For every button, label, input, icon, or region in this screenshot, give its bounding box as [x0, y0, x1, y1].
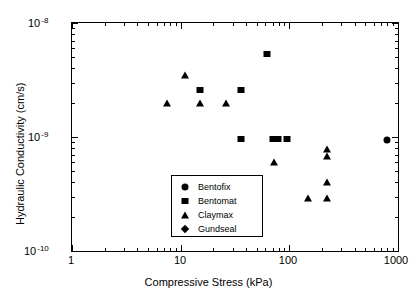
tick-mark	[257, 248, 258, 251]
tick-mark	[72, 41, 75, 42]
tick-mark	[164, 248, 165, 251]
tick-mark	[395, 217, 398, 218]
data-point-claymax	[323, 153, 331, 160]
tick-mark	[322, 23, 323, 26]
data-point-claymax	[323, 195, 331, 202]
tick-mark	[72, 142, 75, 143]
tick-mark	[398, 245, 399, 251]
tick-mark	[233, 248, 234, 251]
legend-item-bentomat: Bentomat	[172, 194, 262, 208]
tick-mark	[170, 23, 171, 26]
data-point-claymax	[163, 99, 171, 106]
legend-item-gundseal: Gundseal	[172, 222, 262, 236]
tick-mark	[341, 23, 342, 26]
tick-mark	[392, 137, 398, 138]
x-axis-title: Compressive Stress (kPa)	[0, 276, 417, 288]
tick-mark	[374, 23, 375, 26]
legend-marker-triangle-icon	[172, 208, 198, 222]
tick-mark	[392, 23, 398, 24]
data-point-bentofix	[384, 136, 391, 143]
tick-mark	[72, 148, 75, 149]
legend-item-claymax: Claymax	[172, 208, 262, 222]
tick-mark	[395, 142, 398, 143]
data-point-claymax	[222, 99, 230, 106]
tick-mark	[164, 23, 165, 26]
tick-mark	[72, 83, 75, 84]
y-tick-mantissa: 10	[24, 245, 36, 257]
square-icon	[182, 198, 189, 204]
tick-mark	[246, 248, 247, 251]
data-point-claymax	[323, 179, 331, 186]
tick-mark	[365, 248, 366, 251]
tick-mark	[72, 68, 75, 69]
x-tick-label-1: 1	[68, 254, 74, 266]
tick-mark	[395, 103, 398, 104]
tick-mark	[72, 197, 75, 198]
data-point-bentomat	[238, 136, 245, 142]
tick-mark	[72, 103, 75, 104]
tick-mark	[137, 248, 138, 251]
legend-label: Claymax	[198, 210, 233, 220]
tick-mark	[395, 162, 398, 163]
tick-mark	[72, 171, 75, 172]
legend-label: Bentofix	[198, 182, 231, 192]
tick-mark	[105, 23, 106, 26]
y-tick-label-1e-8: 10-8	[28, 15, 48, 30]
tick-mark	[72, 28, 75, 29]
tick-mark	[265, 248, 266, 251]
data-point-claymax	[196, 99, 204, 106]
tick-mark	[284, 23, 285, 26]
tick-mark	[257, 23, 258, 26]
tick-mark	[381, 248, 382, 251]
data-point-claymax	[270, 159, 278, 166]
tick-mark	[72, 57, 75, 58]
tick-mark	[341, 248, 342, 251]
plot-area: BentofixBentomatClaymaxGundseal	[71, 22, 399, 252]
tick-mark	[246, 23, 247, 26]
tick-mark	[213, 248, 214, 251]
x-tick-label-10: 10	[174, 254, 186, 266]
y-tick-mantissa: 10	[28, 131, 40, 143]
tick-mark	[273, 248, 274, 251]
x-tick-label-100: 100	[279, 254, 297, 266]
legend-label: Bentomat	[198, 196, 237, 206]
tick-mark	[395, 28, 398, 29]
y-tick-exponent: -8	[41, 16, 48, 25]
tick-mark	[279, 23, 280, 26]
tick-mark	[72, 155, 75, 156]
diamond-icon	[181, 225, 189, 233]
tick-mark	[72, 23, 78, 24]
tick-mark	[395, 155, 398, 156]
data-point-bentomat	[263, 51, 270, 57]
tick-mark	[284, 248, 285, 251]
circle-icon	[182, 184, 189, 191]
tick-mark	[395, 68, 398, 69]
tick-mark	[381, 23, 382, 26]
tick-mark	[395, 197, 398, 198]
y-tick-exponent: -10	[37, 244, 49, 253]
tick-mark	[124, 23, 125, 26]
legend-item-bentofix: Bentofix	[172, 180, 262, 194]
triangle-icon	[181, 212, 189, 219]
data-point-bentomat	[238, 87, 245, 93]
y-tick-label-1e-10: 10-10	[24, 243, 49, 258]
tick-mark	[322, 248, 323, 251]
tick-mark	[72, 137, 78, 138]
tick-mark	[395, 171, 398, 172]
tick-mark	[395, 83, 398, 84]
tick-mark	[148, 248, 149, 251]
tick-mark	[395, 148, 398, 149]
tick-mark	[148, 23, 149, 26]
tick-mark	[395, 34, 398, 35]
tick-mark	[374, 248, 375, 251]
tick-mark	[395, 41, 398, 42]
tick-mark	[387, 248, 388, 251]
data-point-bentomat	[274, 136, 281, 142]
y-tick-label-1e-9: 10-9	[28, 129, 48, 144]
tick-mark	[105, 248, 106, 251]
data-point-bentomat	[196, 87, 203, 93]
tick-mark	[355, 23, 356, 26]
tick-mark	[176, 248, 177, 251]
x-tick-label-1000: 1000	[384, 254, 408, 266]
y-tick-mantissa: 10	[28, 17, 40, 29]
